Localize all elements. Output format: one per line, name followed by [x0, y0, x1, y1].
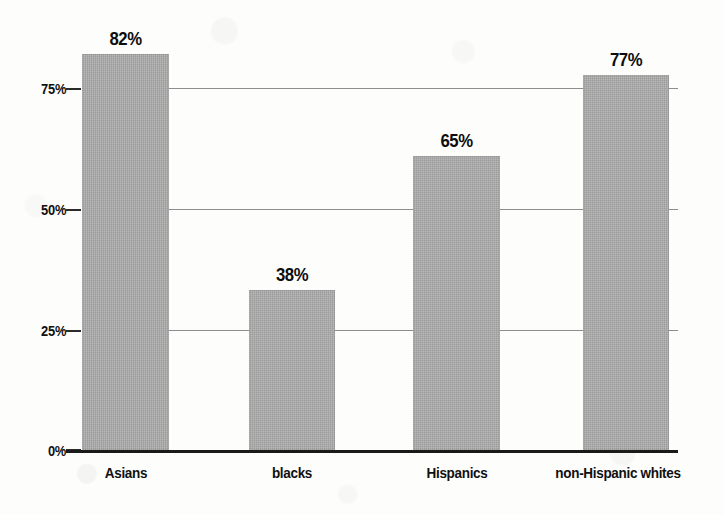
x-axis-category-labels: Asians blacks Hispanics non-Hispanic whi…	[0, 464, 724, 494]
category-label-hispanics: Hispanics	[390, 464, 523, 481]
bar-asians[interactable]	[82, 54, 169, 450]
bar-value-hispanics: 65%	[418, 130, 495, 152]
y-tick-label-50: 50%	[41, 201, 66, 218]
category-label-non-hispanic-whites: non-Hispanic whites	[528, 464, 708, 481]
bar-value-asians: 82%	[87, 28, 164, 50]
bar-value-non-hispanic-whites: 77%	[588, 49, 664, 71]
y-tick-label-25: 25%	[41, 322, 66, 339]
bar-blacks[interactable]	[249, 290, 335, 450]
y-tick-label-0: 0%	[48, 442, 66, 459]
tick-mark-50	[66, 209, 81, 211]
bar-hispanics[interactable]	[413, 156, 500, 450]
tick-mark-25	[66, 330, 81, 332]
plot-area: 82% 38% 65% 77%	[82, 20, 678, 450]
y-tick-label-75: 75%	[41, 80, 66, 97]
bar-value-blacks: 38%	[254, 264, 330, 286]
category-label-blacks: blacks	[225, 464, 358, 481]
y-axis-labels: 0% 25% 50% 75%	[0, 20, 66, 450]
bar-chart: 0% 25% 50% 75% 82% 38% 65% 77% Asians bl…	[0, 0, 724, 515]
bar-non-hispanic-whites[interactable]	[583, 75, 669, 450]
category-label-asians: Asians	[59, 464, 192, 481]
x-axis-baseline	[66, 450, 678, 453]
tick-mark-75	[66, 88, 81, 90]
